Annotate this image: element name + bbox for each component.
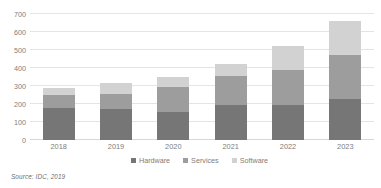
y-tick-label: 0 — [22, 136, 26, 143]
y-tick-label: 300 — [14, 82, 26, 89]
bar-group — [157, 77, 189, 140]
y-tick-label: 400 — [14, 64, 26, 71]
bar-segment-services — [100, 94, 132, 109]
y-tick-label: 100 — [14, 118, 26, 125]
legend-item[interactable]: Software — [232, 157, 268, 164]
x-tick-label: 2023 — [323, 143, 367, 150]
stacked-column-chart: 0100200300400500600700 20182019202020212… — [0, 0, 381, 188]
x-tick-label: 2019 — [94, 143, 138, 150]
legend-swatch-icon — [131, 158, 136, 163]
bar-segment-software — [329, 21, 361, 54]
y-tick-label: 500 — [14, 46, 26, 53]
bar-group — [43, 88, 75, 140]
bar-group — [329, 21, 361, 140]
bar-group — [100, 83, 132, 140]
bar-segment-services — [272, 70, 304, 105]
bar-segment-software — [43, 88, 75, 95]
source-note: Source: IDC, 2019 — [11, 174, 65, 180]
bars-layer — [30, 14, 374, 140]
legend-swatch-icon — [232, 158, 237, 163]
bar-segment-software — [157, 77, 189, 87]
y-tick-label: 600 — [14, 28, 26, 35]
bar-group — [272, 46, 304, 140]
legend-label: Services — [191, 157, 219, 164]
x-tick-label: 2018 — [37, 143, 81, 150]
legend-label: Hardware — [139, 157, 170, 164]
x-tick-label: 2022 — [266, 143, 310, 150]
x-tick-label: 2020 — [151, 143, 195, 150]
legend-label: Software — [240, 157, 268, 164]
x-axis: 201820192020202120222023 — [30, 143, 374, 155]
bar-segment-hardware — [100, 109, 132, 140]
chart-legend: HardwareServicesSoftware — [0, 157, 381, 164]
y-axis: 0100200300400500600700 — [0, 14, 30, 140]
bar-segment-hardware — [329, 99, 361, 140]
legend-swatch-icon — [183, 158, 188, 163]
legend-item[interactable]: Services — [183, 157, 219, 164]
bar-segment-software — [215, 64, 247, 76]
bar-segment-services — [329, 55, 361, 99]
bar-segment-hardware — [157, 112, 189, 140]
bar-segment-services — [43, 95, 75, 108]
x-tick-label: 2021 — [209, 143, 253, 150]
bar-segment-services — [157, 87, 189, 112]
bar-group — [215, 64, 247, 140]
bar-segment-hardware — [215, 105, 247, 140]
legend-item[interactable]: Hardware — [131, 157, 170, 164]
y-tick-label: 200 — [14, 100, 26, 107]
bar-segment-software — [272, 46, 304, 69]
bar-segment-hardware — [272, 105, 304, 140]
bar-segment-services — [215, 76, 247, 105]
y-tick-label: 700 — [14, 10, 26, 17]
bar-segment-hardware — [43, 108, 75, 140]
bar-segment-software — [100, 83, 132, 94]
